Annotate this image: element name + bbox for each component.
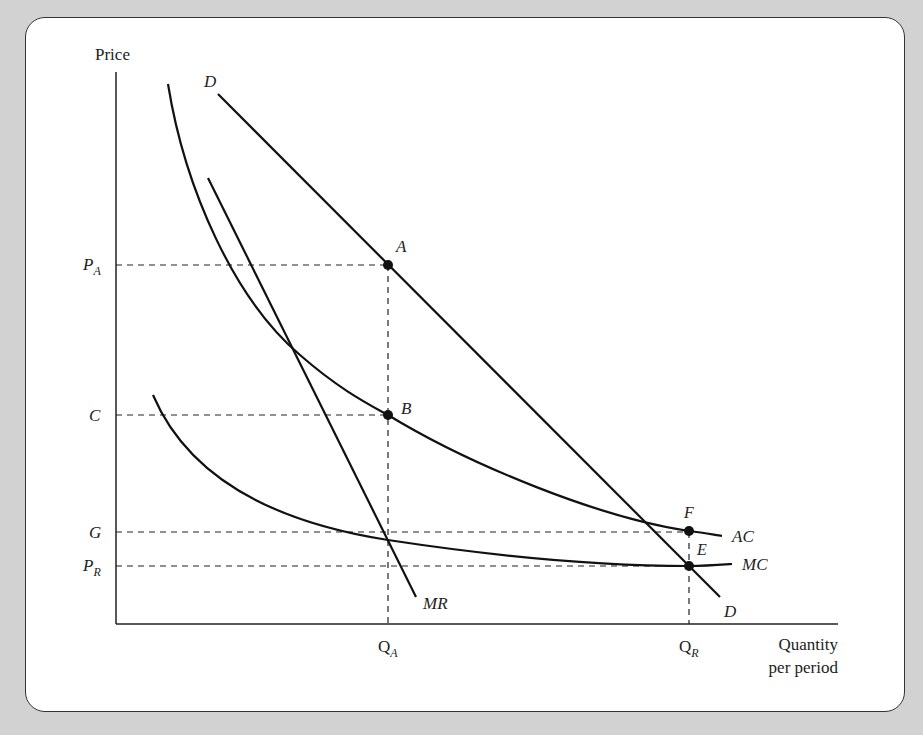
x-tick-qr: QR: [679, 637, 699, 660]
marginal-revenue-curve: [208, 178, 416, 597]
point-e: [684, 561, 694, 571]
point-b: [383, 410, 393, 420]
demand-label-bottom: D: [723, 602, 737, 621]
point-f: [684, 526, 694, 536]
x-tick-qa: QA: [378, 637, 398, 660]
x-axis-label-line1: Quantity: [779, 635, 839, 654]
price-quantity-diagram: Price Quantity per period D D MR AC MC A…: [0, 0, 923, 735]
mc-label: MC: [741, 555, 768, 574]
point-e-label: E: [696, 541, 707, 558]
x-axis-label-line2: per period: [769, 658, 839, 677]
y-tick-g: G: [89, 523, 101, 542]
mr-label: MR: [422, 594, 448, 613]
point-a: [383, 260, 393, 270]
marginal-cost-curve: [153, 395, 732, 566]
y-tick-pr: PR: [82, 556, 101, 579]
point-f-label: F: [683, 504, 694, 521]
point-a-label: A: [395, 237, 407, 256]
y-axis-label: Price: [95, 45, 130, 64]
y-tick-pa: PA: [82, 255, 101, 278]
ac-label: AC: [731, 527, 754, 546]
average-cost-curve: [168, 84, 722, 536]
y-tick-c: C: [89, 406, 101, 425]
demand-label-top: D: [203, 72, 217, 91]
point-b-label: B: [401, 399, 412, 418]
